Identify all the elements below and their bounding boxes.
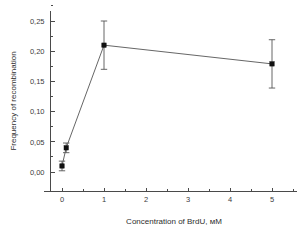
data-series xyxy=(59,21,275,171)
y-tick-label: 0,25 xyxy=(30,17,45,26)
y-tick-label: 0,05 xyxy=(30,138,45,147)
y-tick-label: 0,00 xyxy=(30,168,45,177)
data-point-marker xyxy=(102,43,106,47)
data-point-marker xyxy=(60,164,64,168)
axes xyxy=(44,11,297,192)
x-tick-label: 0 xyxy=(60,195,64,204)
y-axis-title: Frequency of recombination xyxy=(9,51,18,150)
line-chart: 0,000,050,100,150,200,25 012345 Concentr… xyxy=(0,0,303,233)
y-tick-label: 0,15 xyxy=(30,77,45,86)
x-tick-label: 4 xyxy=(228,195,232,204)
x-tick-label: 3 xyxy=(186,195,190,204)
x-axis-ticks: 012345 xyxy=(60,188,293,204)
data-point-marker xyxy=(64,146,68,150)
chart-figure: 0,000,050,100,150,200,25 012345 Concentr… xyxy=(0,0,303,233)
series-line xyxy=(62,45,272,166)
x-tick-label: 1 xyxy=(102,195,106,204)
data-point-marker xyxy=(270,62,274,66)
x-tick-label: 2 xyxy=(144,195,148,204)
x-tick-label: 5 xyxy=(270,195,274,204)
y-tick-label: 0,10 xyxy=(30,107,45,116)
y-tick-label: 0,20 xyxy=(30,47,45,56)
x-axis-title: Concentration of BrdU, мM xyxy=(126,217,222,226)
